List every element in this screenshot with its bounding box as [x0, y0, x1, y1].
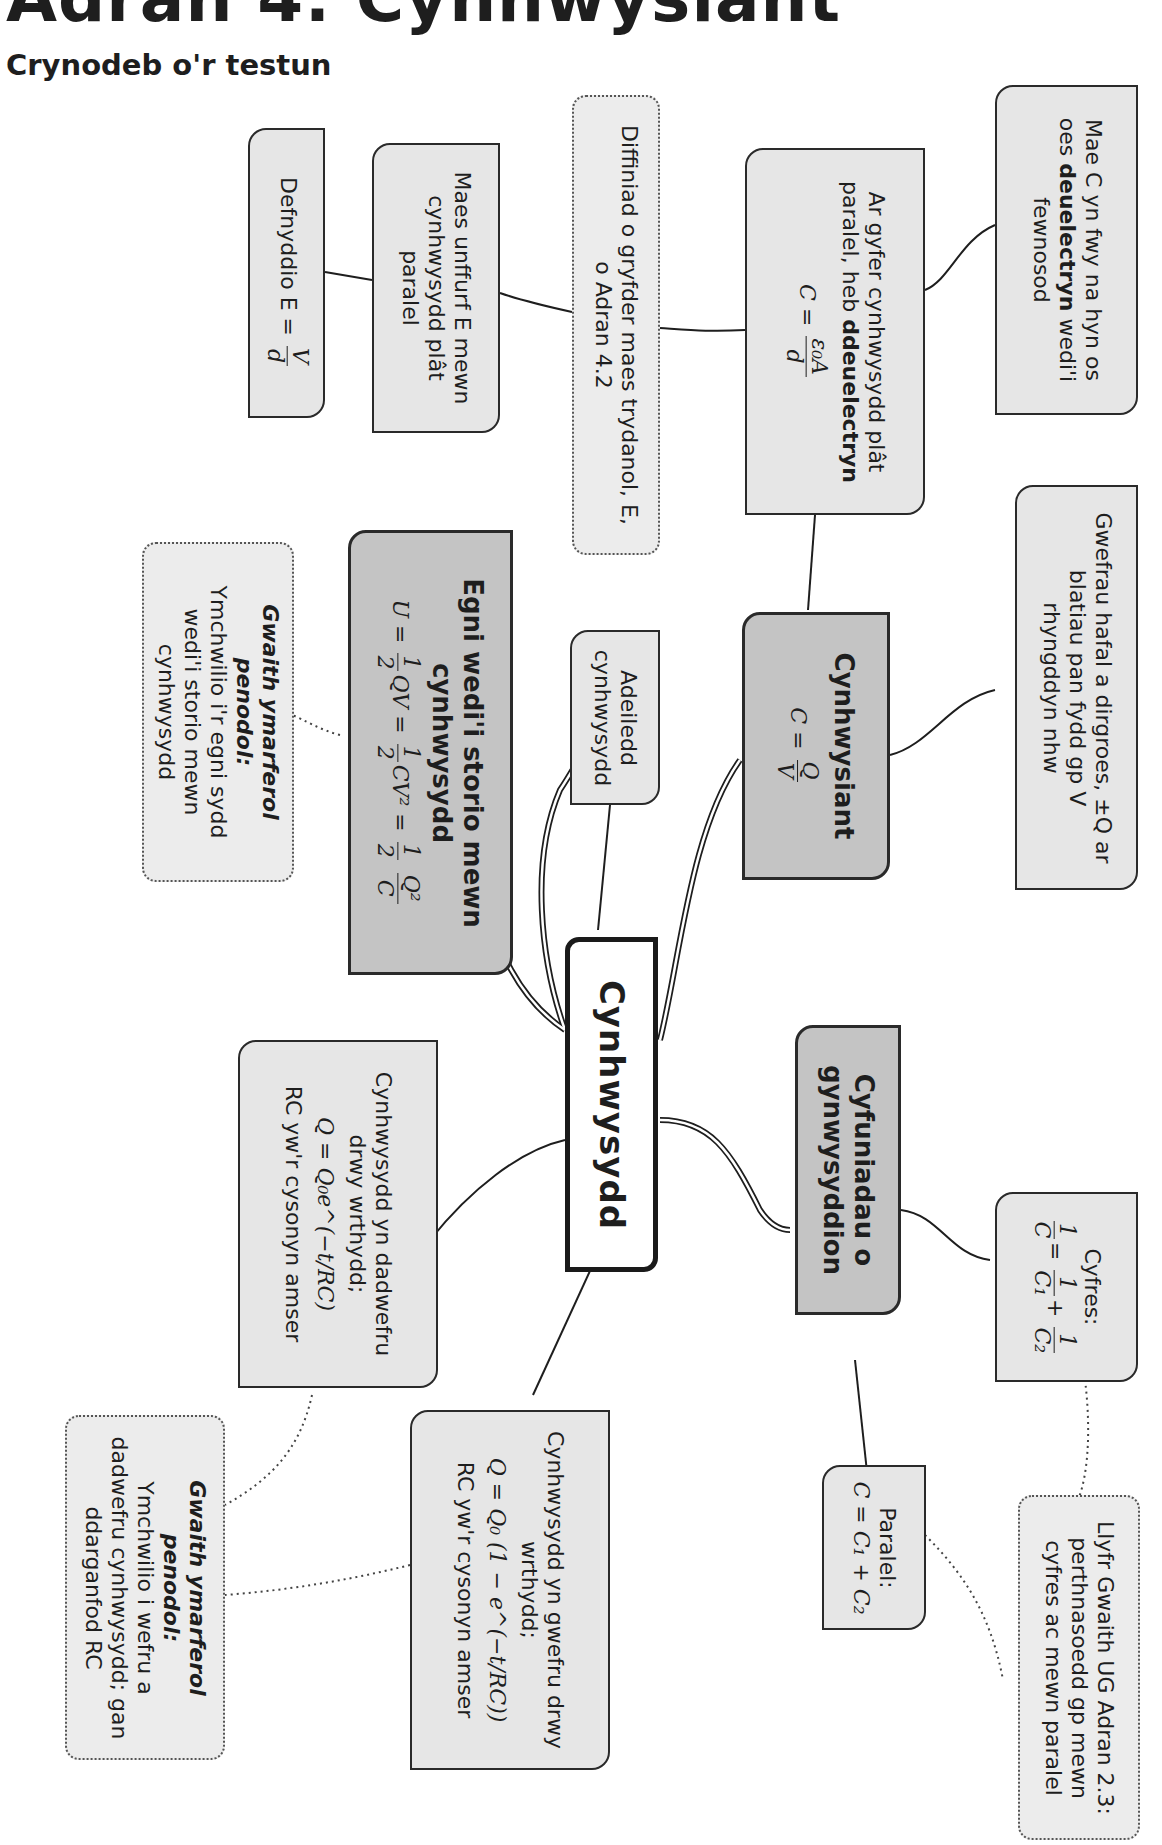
capacitance-formula: C = QV: [773, 621, 822, 871]
formula-numerator: 1: [397, 743, 422, 761]
use-formula-content: Defnyddio E = Vd: [262, 138, 311, 408]
dielectric-node: Mae C yn fwy na hyn os oes deuelectryn w…: [995, 85, 1138, 415]
workbook-reference-node: Llyfr Gwaith UG Adran 2.3: perthnasoedd …: [1018, 1495, 1140, 1840]
uniform-field-node: Maes unffurf E mewn cynhwysydd plât para…: [372, 143, 500, 433]
field-definition-node: Diffiniad o gryfder maes trydanol, E, o …: [572, 95, 660, 555]
capacitance-heading: Cynhwysiant: [828, 621, 859, 871]
charge-note: RC yw'r cysonyn amser: [452, 1425, 478, 1755]
formula-numerator: 1: [1053, 1327, 1078, 1353]
formula-numerator: ε₀A: [806, 336, 831, 377]
energy-heading: Egni wedi'i storio mewn cynhwysydd: [427, 543, 488, 963]
formula-denominator: C₂: [1029, 1327, 1053, 1353]
parallel-formula: C = C₁ + C₂: [848, 1468, 874, 1628]
formula-numerator: V: [286, 346, 311, 366]
formula-term: CV² =: [387, 764, 412, 831]
series-node: Cyfres: 1C= 1C₁+ 1C₂: [995, 1192, 1138, 1382]
formula-numerator: 1: [397, 841, 422, 859]
combinations-node: Cyfuniadau o gynwysyddion: [795, 1025, 901, 1315]
formula-denominator: C: [1029, 1221, 1053, 1239]
formula-denominator: C: [373, 872, 397, 903]
parallel-node: Paralel: C = C₁ + C₂: [822, 1465, 926, 1630]
formula-denominator: V: [773, 760, 797, 782]
discharge-node: Cynhwysydd yn dadwefru drwy wrthydd; Q =…: [238, 1040, 438, 1388]
discharge-formula: Q = Q₀e^(−t/RC): [312, 1054, 338, 1374]
discharge-text: Cynhwysydd yn dadwefru drwy wrthydd;: [344, 1054, 396, 1374]
parallel-plate-formula: C = ε₀Ad: [781, 167, 830, 497]
practical-rc-heading: Gwaith ymarferol penodol:: [159, 1480, 210, 1696]
structure-node: Adeiledd cynhwysydd: [570, 630, 660, 805]
formula-denominator: 2: [373, 653, 397, 671]
parallel-label: Paralel:: [874, 1468, 900, 1628]
uniform-field-text: Maes unffurf E mewn cynhwysydd plât para…: [397, 163, 475, 413]
parallel-plate-node: Ar gyfer cynhwysydd plât paralel, heb dd…: [745, 148, 925, 515]
formula-denominator: d: [262, 346, 286, 366]
formula-numerator: 1: [1053, 1221, 1078, 1239]
dielectric-term: deuelectryn: [1054, 163, 1079, 311]
formula-denominator: d: [781, 336, 805, 377]
capacitance-node: Cynhwysiant C = QV: [742, 612, 890, 880]
formula-plus: +: [1043, 1299, 1068, 1317]
use-formula-text: Defnyddio E =: [276, 177, 301, 336]
series-formula: 1C= 1C₁+ 1C₂: [1029, 1197, 1078, 1377]
charges-node: Gwefrau hafal a dirgroes, ±Q ar blatiau …: [1015, 485, 1138, 890]
field-definition-text: Diffiniad o gryfder maes trydanol, E, o …: [590, 115, 642, 535]
practical-energy-heading: Gwaith ymarferol penodol:: [232, 604, 283, 820]
practical-energy-text: Ymchwilio i'r egni sydd wedi'i storio me…: [153, 557, 231, 867]
formula-lhs: U =: [387, 599, 412, 643]
central-node: Cynhwysydd: [565, 937, 658, 1272]
structure-text: Adeiledd cynhwysydd: [589, 638, 641, 798]
practical-energy-node: Gwaith ymarferol penodol: Ymchwilio i'r …: [142, 542, 294, 882]
charge-formula: Q = Q₀ (1 − e^(−t/RC)): [484, 1425, 510, 1755]
formula-numerator: Q²: [397, 872, 422, 903]
formula-lhs: C =: [787, 707, 812, 749]
formula-lhs: C =: [795, 284, 820, 326]
practical-rc-node: Gwaith ymarferol penodol: Ymchwilio i we…: [65, 1415, 225, 1760]
formula-numerator: 1: [1053, 1270, 1078, 1296]
energy-formula: U = 12QV = 12CV² = 12 Q²C: [373, 543, 422, 963]
formula-term: QV =: [387, 674, 412, 733]
energy-node: Egni wedi'i storio mewn cynhwysydd U = 1…: [348, 530, 513, 975]
combinations-heading: Cyfuniadau o gynwysyddion: [817, 1035, 878, 1305]
formula-denominator: 2: [373, 841, 397, 859]
parallel-plate-term: ddeuelectryn: [838, 319, 863, 483]
formula-denominator: C₁: [1029, 1270, 1053, 1296]
central-node-label: Cynhwysydd: [591, 945, 631, 1265]
charge-node: Cynhwysydd yn gwefru drwy wrthydd; Q = Q…: [410, 1410, 610, 1770]
discharge-note: RC yw'r cysonyn amser: [280, 1054, 306, 1374]
formula-numerator: 1: [397, 653, 422, 671]
practical-rc-text: Ymchwilio i wefru a dadwefru cynhwysydd;…: [80, 1428, 158, 1748]
formula-numerator: Q: [797, 760, 822, 782]
formula-denominator: 2: [373, 743, 397, 761]
charges-text: Gwefrau hafal a dirgroes, ±Q ar blatiau …: [1038, 508, 1116, 868]
charge-text: Cynhwysydd yn gwefru drwy wrthydd;: [516, 1425, 568, 1755]
use-formula-node: Defnyddio E = Vd: [248, 128, 325, 418]
workbook-reference-text: Llyfr Gwaith UG Adran 2.3: perthnasoedd …: [1040, 1508, 1118, 1828]
series-label: Cyfres:: [1078, 1197, 1104, 1377]
